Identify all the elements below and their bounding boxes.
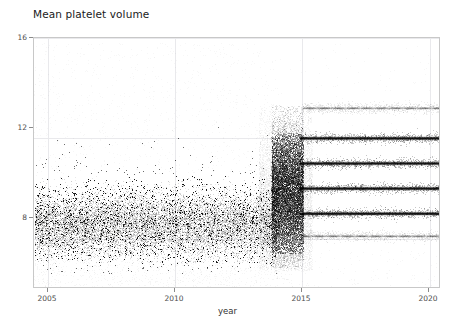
y-tick-label-8: 8	[3, 213, 27, 222]
y-tick-mark-12	[29, 127, 33, 128]
y-tick-label-12: 12	[3, 123, 27, 132]
x-axis-label: year	[0, 306, 455, 316]
x-tick-label-2010: 2010	[164, 294, 183, 303]
chart-title: Mean platelet volume	[33, 8, 149, 20]
y-tick-mark-16	[29, 37, 33, 38]
x-tick-label-2015: 2015	[291, 294, 310, 303]
y-tick-label-16: 16	[3, 33, 27, 42]
x-tick-mark-2005	[47, 288, 48, 292]
x-tick-mark-2010	[174, 288, 175, 292]
x-tick-mark-2020	[428, 288, 429, 292]
chart-figure: Mean platelet volume 16 12 8 2005 2010 2…	[0, 0, 455, 323]
x-tick-label-2020: 2020	[418, 294, 437, 303]
y-tick-mark-8	[29, 217, 33, 218]
scatter-points-layer	[34, 38, 440, 288]
x-tick-mark-2015	[301, 288, 302, 292]
x-tick-label-2005: 2005	[37, 294, 56, 303]
plot-area	[33, 37, 440, 288]
